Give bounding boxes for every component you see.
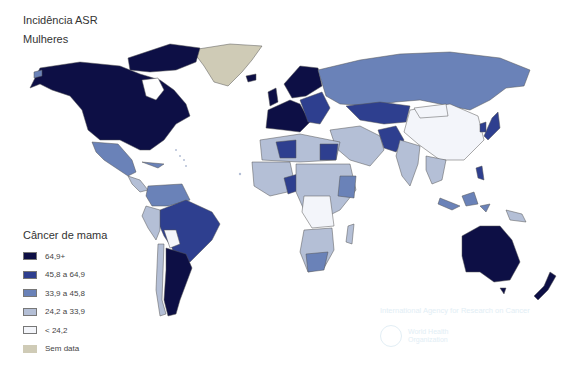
region-mexico [92, 142, 136, 176]
legend-label: Sem data [45, 344, 79, 353]
region-argentina [164, 248, 192, 316]
legend-swatch [23, 252, 37, 260]
region-scandinavia [284, 66, 322, 98]
legend-swatch [23, 271, 37, 279]
legend-label: < 24,2 [45, 326, 67, 335]
region-peru [142, 206, 160, 240]
legend-swatch [23, 289, 37, 297]
legend-label: 24,2 a 33,9 [45, 307, 85, 316]
legend-swatch [23, 345, 37, 353]
region-central-america [128, 176, 148, 192]
region-russia [318, 52, 530, 110]
region-japan [484, 112, 500, 140]
region-india [396, 140, 420, 186]
region-north-america [30, 62, 190, 150]
region-indonesia [438, 198, 460, 210]
who-line2: Organization [408, 336, 448, 344]
legend-swatch [23, 326, 37, 334]
region-canada-islands [128, 44, 200, 72]
map-legend: Câncer de mama 64,9+ 45,8 a 64,9 33,9 a … [23, 229, 107, 358]
legend-item: 33,9 a 45,8 [23, 284, 107, 303]
legend-item: Sem data [23, 340, 107, 359]
legend-item: < 24,2 [23, 321, 107, 340]
who-emblem-icon [380, 325, 402, 347]
legend-item: 64,9+ [23, 247, 107, 266]
legend-item: 24,2 a 33,9 [23, 303, 107, 322]
iarc-watermark: International Agency for Research on Can… [380, 306, 530, 315]
legend-label: 64,9+ [45, 252, 65, 261]
legend-item: 45,8 a 64,9 [23, 266, 107, 285]
legend-swatch [23, 308, 37, 316]
region-new-zealand [534, 272, 556, 300]
region-australia [462, 226, 520, 282]
legend-label: 33,9 a 45,8 [45, 289, 85, 298]
who-line1: World Health [408, 328, 448, 336]
region-kazakhstan [346, 102, 410, 124]
legend-title: Câncer de mama [23, 229, 107, 241]
who-logo-block: World Health Organization [380, 325, 448, 347]
legend-label: 45,8 a 64,9 [45, 270, 85, 279]
